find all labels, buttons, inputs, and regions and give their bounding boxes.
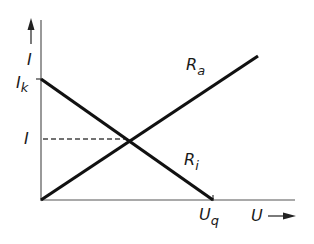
line-ra xyxy=(41,56,258,200)
i-label: I xyxy=(24,129,29,148)
diagram-canvas: I Ik I Ra Ri Uq U xyxy=(0,0,314,244)
x-axis-label: U xyxy=(251,206,263,225)
ik-label: Ik xyxy=(16,73,29,95)
x-axis-arrow-icon xyxy=(268,213,296,220)
y-axis-arrow-icon xyxy=(28,18,35,44)
uq-label: Uq xyxy=(199,205,219,228)
ra-label: Ra xyxy=(186,55,205,78)
y-axis-label: I xyxy=(27,50,32,69)
ri-label: Ri xyxy=(184,150,199,173)
